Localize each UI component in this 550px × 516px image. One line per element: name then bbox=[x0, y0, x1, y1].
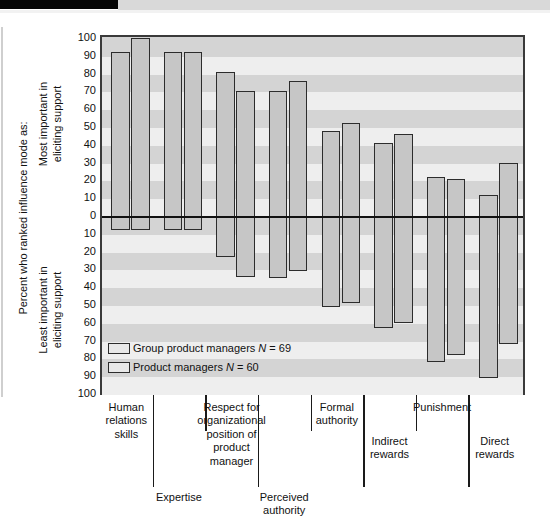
bar bbox=[289, 81, 308, 271]
legend-swatch bbox=[108, 343, 130, 354]
bar bbox=[342, 123, 361, 303]
legend: Group product managers N = 69Product man… bbox=[108, 340, 323, 378]
y-tick-label: 20 bbox=[84, 245, 96, 256]
bar bbox=[269, 91, 288, 278]
y-tick-label: 90 bbox=[84, 370, 96, 381]
bar bbox=[447, 179, 466, 355]
y-tick-label: 50 bbox=[84, 121, 96, 132]
category-label: Respect for organizational position of p… bbox=[197, 401, 266, 468]
y-tick-label: 100 bbox=[78, 32, 96, 43]
y-tick-label: 70 bbox=[84, 85, 96, 96]
bar bbox=[479, 195, 498, 378]
category-label: Punishment bbox=[413, 401, 471, 414]
bar bbox=[164, 52, 183, 230]
gridline-band bbox=[102, 377, 523, 395]
y-tick-label: 80 bbox=[84, 67, 96, 78]
category-axis: Human relations skillsExpertiseRespect f… bbox=[100, 395, 525, 516]
bar bbox=[216, 72, 235, 257]
y-tick-label: 50 bbox=[84, 299, 96, 310]
zero-axis-line bbox=[102, 216, 523, 218]
y-tick-label: 60 bbox=[84, 103, 96, 114]
header-gray-band bbox=[118, 0, 550, 10]
category-label: Formal authority bbox=[316, 401, 358, 428]
header-black-band bbox=[0, 0, 118, 9]
bar bbox=[394, 134, 413, 323]
category-label: Direct rewards bbox=[475, 435, 514, 462]
y-tick-label: 60 bbox=[84, 316, 96, 327]
bar bbox=[374, 143, 393, 328]
y-tick-label: 40 bbox=[84, 138, 96, 149]
y-tick-label: 30 bbox=[84, 263, 96, 274]
y-axis-title-text: Percent who ranked influence mode as: bbox=[17, 121, 29, 314]
category-label: Human relations skills bbox=[106, 401, 148, 441]
category-label: Perceived authority bbox=[260, 491, 309, 516]
bar bbox=[322, 131, 341, 307]
left-rule bbox=[1, 27, 3, 397]
bar bbox=[499, 163, 518, 345]
category-tick bbox=[311, 395, 313, 431]
y-tick-label: 100 bbox=[78, 388, 96, 399]
bar bbox=[184, 52, 203, 230]
bar bbox=[111, 52, 130, 230]
y-tick-label: 40 bbox=[84, 281, 96, 292]
bar bbox=[427, 177, 446, 362]
category-label: Expertise bbox=[156, 491, 202, 504]
y-tick-label: 70 bbox=[84, 334, 96, 345]
y-tick-label: 10 bbox=[84, 227, 96, 238]
legend-swatch bbox=[108, 362, 130, 373]
y-tick-label: 0 bbox=[90, 210, 96, 221]
bar bbox=[131, 38, 150, 230]
legend-label: Product managers N = 60 bbox=[133, 361, 259, 373]
figure-container: Percent who ranked influence mode as: Mo… bbox=[0, 13, 550, 516]
y-tick-label: 20 bbox=[84, 174, 96, 185]
y-axis-tick-labels: 1009080706050403020100102030405060708090… bbox=[60, 35, 96, 395]
legend-item: Group product managers N = 69 bbox=[108, 340, 323, 356]
bar bbox=[236, 91, 255, 276]
category-tick bbox=[153, 395, 155, 487]
category-label: Indirect rewards bbox=[370, 435, 409, 462]
y-tick-label: 80 bbox=[84, 352, 96, 363]
y-tick-label: 90 bbox=[84, 49, 96, 60]
y-tick-label: 10 bbox=[84, 192, 96, 203]
y-axis-title: Percent who ranked influence mode as: bbox=[14, 73, 32, 363]
y-tick-label: 30 bbox=[84, 156, 96, 167]
legend-item: Product managers N = 60 bbox=[108, 359, 323, 375]
legend-label: Group product managers N = 69 bbox=[133, 342, 291, 354]
category-tick bbox=[363, 395, 365, 487]
